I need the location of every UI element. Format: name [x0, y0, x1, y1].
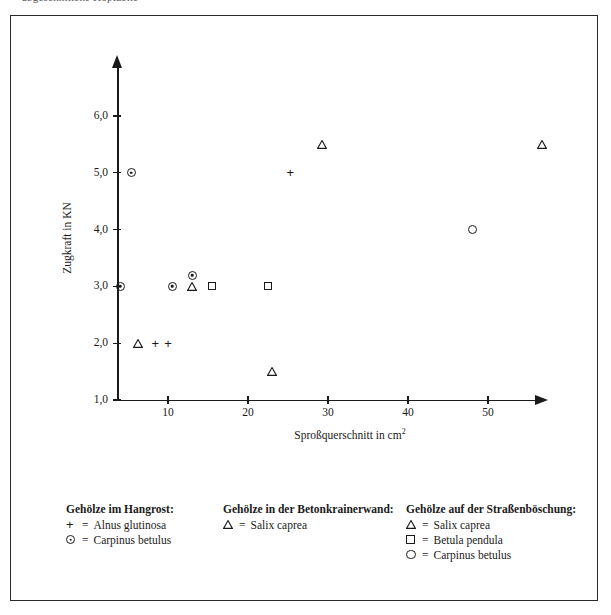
- legend-species-name: Alnus glutinosa: [94, 519, 167, 531]
- data-point-circledot: [188, 271, 197, 280]
- data-point-triangle: [267, 367, 277, 376]
- legend-group-3: Gehölze auf der Straßenböschung:=Salix c…: [406, 503, 576, 562]
- legend-symbol-plus-icon: +: [66, 519, 80, 531]
- legend-entry: =Salix caprea: [406, 517, 576, 532]
- legend-entry: =Carpinus betulus: [66, 532, 174, 547]
- legend-species-name: Carpinus betulus: [434, 549, 512, 561]
- y-tick-mark: [113, 172, 121, 173]
- data-point-circledot: [127, 168, 136, 177]
- legend-entry: +=Alnus glutinosa: [66, 517, 174, 532]
- legend-entry: =Betula pendula: [406, 532, 576, 547]
- legend-group-1: Gehölze im Hangrost:+=Alnus glutinosa=Ca…: [66, 503, 174, 547]
- legend-equals-sign: =: [422, 534, 429, 546]
- legend-species-name: Betula pendula: [434, 534, 503, 546]
- legend-species-name: Carpinus betulus: [94, 534, 172, 546]
- x-axis-title-text: Sproßquerschnitt in cm: [294, 429, 401, 441]
- y-tick-label: 6,0: [76, 109, 108, 121]
- data-point-plus: +: [286, 168, 295, 177]
- x-tick-label: 50: [473, 406, 503, 418]
- y-tick-label: 2,0: [76, 336, 108, 348]
- legend-equals-sign: =: [82, 534, 89, 546]
- x-tick-mark: [167, 396, 168, 404]
- legend-group-title: Gehölze im Hangrost:: [66, 503, 174, 515]
- x-axis-arrow-icon: [535, 395, 548, 405]
- data-point-plus: +: [151, 339, 160, 348]
- x-axis-title: Sproßquerschnitt in cm2: [294, 427, 405, 441]
- legend-group-title: Gehölze auf der Straßenböschung:: [406, 503, 576, 515]
- legend-group-title: Gehölze in der Betonkrainerwand:: [223, 503, 394, 515]
- legend-symbol-circle-icon: [406, 549, 420, 561]
- legend-symbol-triangle-icon: [223, 519, 237, 531]
- x-tick-mark: [407, 396, 408, 404]
- data-point-triangle: [187, 282, 197, 291]
- y-tick-label: 5,0: [76, 166, 108, 178]
- legend-entry: =Salix caprea: [223, 517, 394, 532]
- y-tick-mark: [113, 343, 121, 344]
- x-tick-label: 40: [393, 406, 423, 418]
- legend-group-2: Gehölze in der Betonkrainerwand:=Salix c…: [223, 503, 394, 532]
- legend-equals-sign: =: [82, 519, 89, 531]
- data-point-plus: +: [164, 339, 173, 348]
- y-tick-label: 3,0: [76, 279, 108, 291]
- x-tick-label: 10: [153, 406, 183, 418]
- data-point-circle: [468, 225, 477, 234]
- x-tick-mark: [487, 396, 488, 404]
- y-tick-label: 4,0: [76, 223, 108, 235]
- x-tick-label: 30: [313, 406, 343, 418]
- legend-equals-sign: =: [239, 519, 246, 531]
- y-tick-mark: [113, 399, 121, 400]
- x-tick-label: 20: [233, 406, 263, 418]
- y-tick-mark: [113, 115, 121, 116]
- data-point-triangle: [537, 140, 547, 149]
- legend-equals-sign: =: [422, 519, 429, 531]
- legend-symbol-triangle-icon: [406, 519, 420, 531]
- legend-symbol-circledot-icon: [66, 534, 80, 546]
- data-point-circledot: [116, 282, 125, 291]
- data-point-triangle: [133, 339, 143, 348]
- data-point-square: [208, 282, 217, 291]
- legend-species-name: Salix caprea: [434, 519, 491, 531]
- legend-equals-sign: =: [422, 549, 429, 561]
- data-point-triangle: [317, 140, 327, 149]
- y-tick-label: 1,0: [76, 393, 108, 405]
- legend-entry: =Carpinus betulus: [406, 547, 576, 562]
- y-axis-title: Zugkraft in KN: [61, 168, 73, 308]
- data-point-square: [264, 282, 273, 291]
- x-axis-title-exponent: 2: [402, 427, 406, 436]
- y-axis-arrow-icon: [112, 55, 122, 68]
- x-tick-mark: [247, 396, 248, 404]
- y-tick-mark: [113, 229, 121, 230]
- legend-symbol-square-icon: [406, 534, 420, 546]
- legend-species-name: Salix caprea: [251, 519, 308, 531]
- data-point-circledot: [168, 282, 177, 291]
- x-tick-mark: [327, 396, 328, 404]
